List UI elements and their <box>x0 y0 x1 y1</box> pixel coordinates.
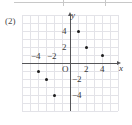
page-rule-tick-right <box>105 0 106 6</box>
data-point <box>53 94 56 97</box>
data-point <box>77 30 80 33</box>
data-point <box>101 54 104 57</box>
problem-number-label: (2) <box>5 17 16 26</box>
page-rule-divider <box>14 2 132 3</box>
x-axis-name: x <box>119 64 123 73</box>
data-point <box>37 70 40 73</box>
page-rule-tick-left <box>63 0 64 6</box>
figure-container: (2) xyO−4−22442−2−4 <box>0 0 132 125</box>
data-point <box>85 46 88 49</box>
gridline-horizontal <box>22 111 118 112</box>
data-point-layer <box>22 15 118 111</box>
coordinate-plane: xyO−4−22442−2−4 <box>22 15 118 111</box>
data-point <box>45 78 48 81</box>
